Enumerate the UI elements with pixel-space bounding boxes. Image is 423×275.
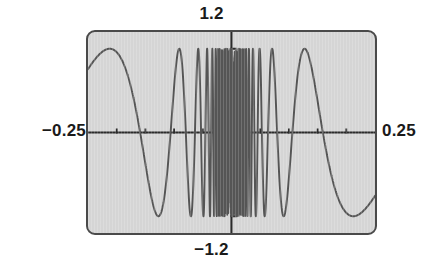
y-max-label: 1.2 [0, 4, 423, 24]
y-min-label: −1.2 [0, 240, 423, 260]
plot-area [88, 32, 375, 233]
calculator-screen [86, 30, 377, 235]
x-min-label: −0.25 [14, 121, 86, 141]
figure-root: 1.2 −0.25 0.25 −1.2 [0, 0, 423, 275]
x-max-label: 0.25 [382, 121, 416, 141]
